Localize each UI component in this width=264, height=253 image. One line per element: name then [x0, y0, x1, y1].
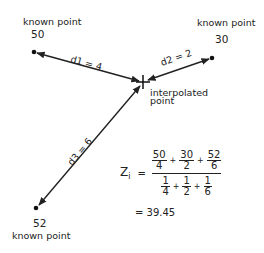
known-point-50-dot: [32, 50, 37, 55]
idw-formula: Zi = 504 + 302 + 526 14 + 12 + 16: [120, 150, 221, 197]
known-point-50-value: 50: [31, 29, 44, 40]
known-point-52-label: known point: [12, 231, 70, 241]
numerator-term-2: 302: [179, 150, 194, 171]
numerator-term-1: 504: [152, 150, 167, 171]
denominator-term-3: 16: [204, 176, 212, 197]
known-point-30-dot: [210, 56, 215, 61]
denominator-term-1: 14: [161, 176, 169, 197]
formula-lhs: Zi: [120, 165, 130, 181]
known-point-30-label: known point: [197, 18, 255, 28]
known-point-50-label: known point: [23, 17, 81, 27]
formula-result: = 39.45: [135, 207, 175, 218]
distance-label-d3: d3 = 6: [65, 136, 94, 168]
denominator-term-2: 12: [182, 176, 190, 197]
interpolated-point-cross-icon: [136, 75, 150, 89]
distance-label-d2: d2 = 2: [159, 47, 193, 68]
formula-main-fraction: 504 + 302 + 526 14 + 12 + 16: [152, 150, 222, 197]
formula-numerator: 504 + 302 + 526: [152, 150, 222, 174]
known-point-30-value: 30: [215, 34, 228, 45]
numerator-term-3: 526: [207, 150, 222, 171]
interpolated-point-label-line2: point: [150, 96, 174, 106]
known-point-52-value: 52: [33, 218, 46, 229]
distance-label-d1: d1 = 4: [69, 53, 103, 72]
formula-denominator: 14 + 12 + 16: [161, 174, 212, 197]
known-point-52-dot: [34, 206, 39, 211]
formula-equals: =: [137, 168, 145, 179]
